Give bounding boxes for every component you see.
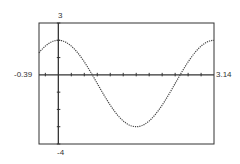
ymin-label: -4 (57, 149, 64, 157)
function-curve (39, 40, 214, 126)
ticks (45, 23, 201, 144)
chart-canvas (0, 0, 240, 164)
axes (39, 23, 214, 144)
ymax-label: 3 (58, 12, 62, 20)
xmin-label: -0.39 (14, 71, 32, 79)
xmax-label: 3.14 (216, 71, 232, 79)
plot-frame (39, 23, 214, 144)
